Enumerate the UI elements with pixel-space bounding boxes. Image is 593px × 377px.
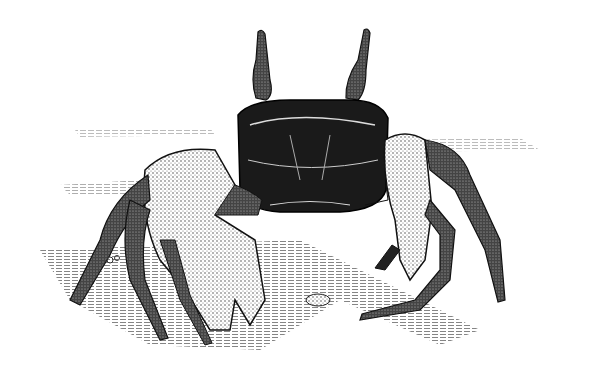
carapace bbox=[238, 100, 388, 212]
eye-stalks bbox=[253, 29, 370, 100]
crab-drawing bbox=[0, 0, 593, 377]
crab-illustration bbox=[0, 0, 593, 377]
